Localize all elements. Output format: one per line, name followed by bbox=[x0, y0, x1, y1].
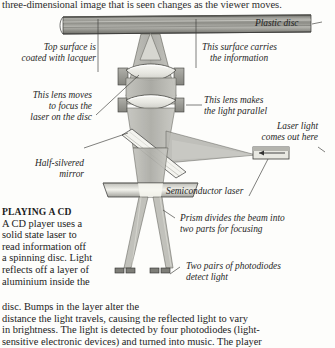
article-full-width: disc. Bumps in the layer alter the dista… bbox=[2, 301, 335, 347]
article-line-0: A CD player uses a bbox=[2, 218, 148, 230]
article-wide-line-2: in brightness. The light is detected by … bbox=[2, 324, 335, 336]
article-heading: PLAYING A CD bbox=[2, 206, 148, 218]
label-laser-light-line1: Laser light bbox=[230, 121, 318, 132]
article-wide-line-0: disc. Bumps in the layer alter the bbox=[2, 301, 335, 313]
label-focus-lens-line2: to focus the bbox=[0, 101, 92, 112]
label-top-surface-line2: coated with lacquer bbox=[0, 53, 96, 64]
label-prism-line2: two parts for focusing bbox=[180, 224, 335, 235]
article-line-5: aluminium inside the bbox=[2, 276, 148, 288]
article-line-3: a spinning disc. Light bbox=[2, 252, 148, 264]
article-wide-line-1: distance the light travels, causing the … bbox=[2, 313, 335, 325]
page-root: three-dimensional image that is seen cha… bbox=[0, 0, 335, 348]
label-parallel-lens-line2: the light parallel bbox=[204, 106, 314, 117]
article-line-2: read information off bbox=[2, 241, 148, 253]
label-prism-line1: Prism divides the beam into bbox=[180, 213, 335, 224]
semiconductor-laser bbox=[253, 147, 289, 159]
label-plastic-disc: Plastic disc bbox=[255, 18, 335, 29]
beam-to-prism bbox=[133, 148, 168, 184]
label-laser-light-line2: comes out here bbox=[218, 132, 318, 143]
label-photodiodes-line1: Two pairs of photodiodes bbox=[186, 261, 335, 272]
article-column: PLAYING A CD A CD player uses a solid st… bbox=[2, 206, 148, 287]
label-half-silvered-line2: mirror bbox=[0, 169, 84, 180]
article-line-4: reflects off a layer of bbox=[2, 264, 148, 276]
label-surface-carries-line1: This surface carries bbox=[202, 42, 322, 53]
label-parallel-lens-line1: This lens makes bbox=[204, 95, 314, 106]
label-half-silvered-line1: Half-silvered bbox=[0, 158, 84, 169]
label-semiconductor-laser: Semiconductor laser bbox=[166, 186, 296, 197]
label-focus-lens-line3: laser on the disc bbox=[0, 112, 92, 123]
label-surface-carries-line2: the information bbox=[210, 53, 330, 64]
label-photodiodes-line2: detect light bbox=[186, 272, 335, 283]
article-line-1: solid state laser to bbox=[2, 229, 148, 241]
label-top-surface-line1: Top surface is bbox=[6, 42, 96, 53]
label-focus-lens-line1: This lens moves bbox=[0, 90, 92, 101]
article-wide-line-3: sensitive electronic devices) and turned… bbox=[2, 336, 335, 348]
